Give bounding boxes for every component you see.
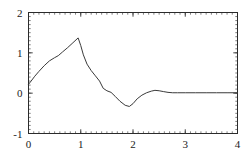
- x-axis-tick-labels: 01234: [26, 138, 241, 150]
- x-tick-label: 1: [78, 138, 84, 150]
- x-tick-label: 3: [183, 138, 189, 150]
- major-ticks: [29, 13, 238, 134]
- line-chart: 01234-1012: [0, 0, 249, 159]
- y-axis-tick-labels: -1012: [13, 7, 23, 140]
- x-tick-label: 2: [130, 138, 136, 150]
- x-tick-label: 4: [235, 138, 241, 150]
- data-line-signal: [29, 38, 238, 107]
- y-tick-label: 2: [17, 7, 23, 19]
- minor-ticks: [29, 13, 238, 134]
- y-tick-label: 1: [17, 47, 23, 59]
- y-tick-label: -1: [13, 128, 22, 140]
- y-tick-label: 0: [17, 87, 23, 99]
- plot-frame: [29, 13, 238, 134]
- chart-figure: 01234-1012: [0, 0, 249, 159]
- x-tick-label: 0: [26, 138, 32, 150]
